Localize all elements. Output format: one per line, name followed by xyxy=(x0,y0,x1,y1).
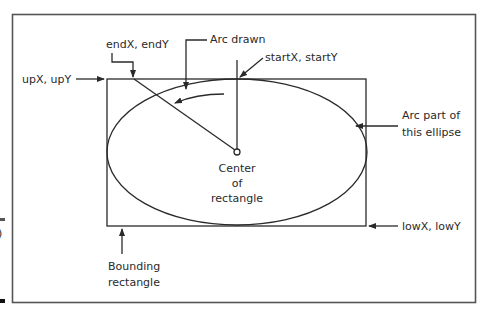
bounding-label-line1: Bounding xyxy=(108,260,160,273)
end-radius-line xyxy=(134,79,235,150)
center-point-icon xyxy=(234,149,240,155)
center-label-line2: of xyxy=(232,177,244,190)
margin-mark-bottom xyxy=(0,299,5,303)
margin-mark-top xyxy=(0,218,5,221)
arc-part-label-line2: this ellipse xyxy=(402,126,461,139)
upper-corner-label: upX, upY xyxy=(22,73,71,86)
end-point-label: endX, endY xyxy=(106,38,169,51)
arc-part-label-line1: Arc part of xyxy=(402,109,461,122)
margin-fragment: ) xyxy=(0,227,2,240)
center-label-line1: Center xyxy=(218,162,256,175)
end-point-leader xyxy=(112,53,133,77)
outer-frame xyxy=(13,15,476,303)
arc-diagram: ) endX, endY Arc drawn startX, startY up… xyxy=(0,0,482,313)
lower-corner-label: lowX, lowY xyxy=(402,220,461,233)
start-point-label: startX, startY xyxy=(265,51,338,64)
center-label-line3: rectangle xyxy=(211,192,263,205)
start-point-leader xyxy=(240,58,263,77)
arc-drawn-label: Arc drawn xyxy=(210,33,266,46)
arc-direction-arrow xyxy=(175,94,224,103)
bounding-label-line2: rectangle xyxy=(108,276,160,289)
